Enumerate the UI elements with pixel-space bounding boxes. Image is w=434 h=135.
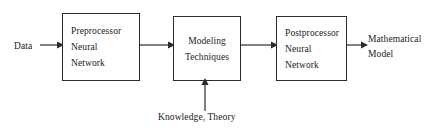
output-label-line-1: Mathematical <box>368 32 421 47</box>
node-preprocessor-line-1: Preprocessor <box>63 23 139 39</box>
node-preprocessor-line-2: Neural <box>63 39 139 55</box>
node-postprocessor-line-1: Postprocessor <box>277 25 346 41</box>
node-postprocessor-line-2: Neural <box>277 41 346 57</box>
node-postprocessor-neural-network: Postprocessor Neural Network <box>276 16 347 81</box>
arrow-preprocessor-to-modeling <box>139 39 175 51</box>
node-preprocessor-neural-network: Preprocessor Neural Network <box>62 13 140 81</box>
input-label-data: Data <box>14 39 32 53</box>
output-label-mathematical-model: Mathematical Model <box>368 32 421 61</box>
node-postprocessor-line-3: Network <box>277 57 346 73</box>
side-input-label-knowledge-theory: Knowledge, Theory <box>158 110 236 124</box>
node-modeling-techniques: Modeling Techniques <box>173 16 241 81</box>
arrow-modeling-to-postprocessor <box>240 39 278 51</box>
arrow-data-to-preprocessor <box>40 39 64 51</box>
arrow-knowledge-to-modeling <box>199 78 211 111</box>
node-preprocessor-line-3: Network <box>63 55 139 71</box>
arrow-postprocessor-to-output <box>346 39 368 51</box>
node-modeling-line-2: Techniques <box>174 49 240 65</box>
block-diagram: Data Preprocessor Neural Network Modelin… <box>0 0 434 135</box>
node-modeling-line-1: Modeling <box>174 33 240 49</box>
output-label-line-2: Model <box>368 47 421 62</box>
